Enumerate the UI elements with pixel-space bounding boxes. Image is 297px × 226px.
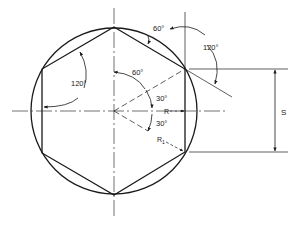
label-outer-120: 120° <box>203 43 219 52</box>
hexagon-construction-diagram: 60° 120° 120° 60° 30° 30° R R1 S <box>0 0 297 226</box>
label-top-edge-60: 60° <box>153 24 164 33</box>
label-center-60: 60° <box>132 68 143 77</box>
centerlines <box>12 8 228 216</box>
label-upper-30: 30° <box>156 94 167 103</box>
label-lower-30: 30° <box>156 119 167 128</box>
label-outer-radius-sub: 1 <box>162 139 165 145</box>
construction-lines <box>114 12 288 152</box>
label-width-s: S <box>281 108 286 117</box>
label-outer-radius: R1 <box>157 136 165 145</box>
upper-radius-dashed <box>114 69 185 111</box>
label-left-120: 120° <box>71 79 87 88</box>
arc-top-edge-60 <box>148 36 149 44</box>
arc-lower-30 <box>148 114 152 131</box>
arc-upper-30 <box>146 90 152 108</box>
angle-arcs <box>44 27 217 131</box>
outer-radius-leader <box>166 142 183 151</box>
arc-outer-120 <box>170 27 205 35</box>
lower-radius-dashed <box>114 111 148 131</box>
label-inner-radius: R <box>164 108 169 115</box>
arc-left-120-lower <box>44 98 78 107</box>
